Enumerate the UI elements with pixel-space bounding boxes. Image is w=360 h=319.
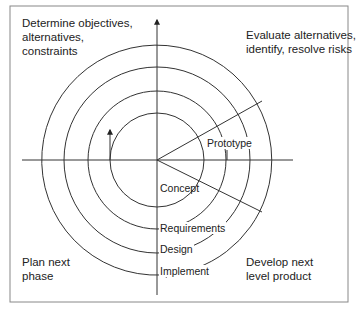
implement-label: Implement bbox=[159, 265, 210, 277]
quadrant-top-right-label: Evaluate alternatives, identify, resolve… bbox=[246, 28, 356, 56]
quadrant-bottom-right-label: Develop next level product bbox=[246, 255, 313, 283]
quadrant-bottom-left-label: Plan next phase bbox=[22, 255, 70, 283]
prototype-label: Prototype bbox=[206, 137, 253, 149]
quadrant-top-left-label: Determine objectives, alternatives, cons… bbox=[22, 16, 133, 58]
concept-label: Concept bbox=[159, 182, 200, 194]
spoke-upper bbox=[157, 101, 262, 160]
design-label: Design bbox=[159, 243, 194, 255]
requirements-label: Requirements bbox=[159, 222, 226, 234]
